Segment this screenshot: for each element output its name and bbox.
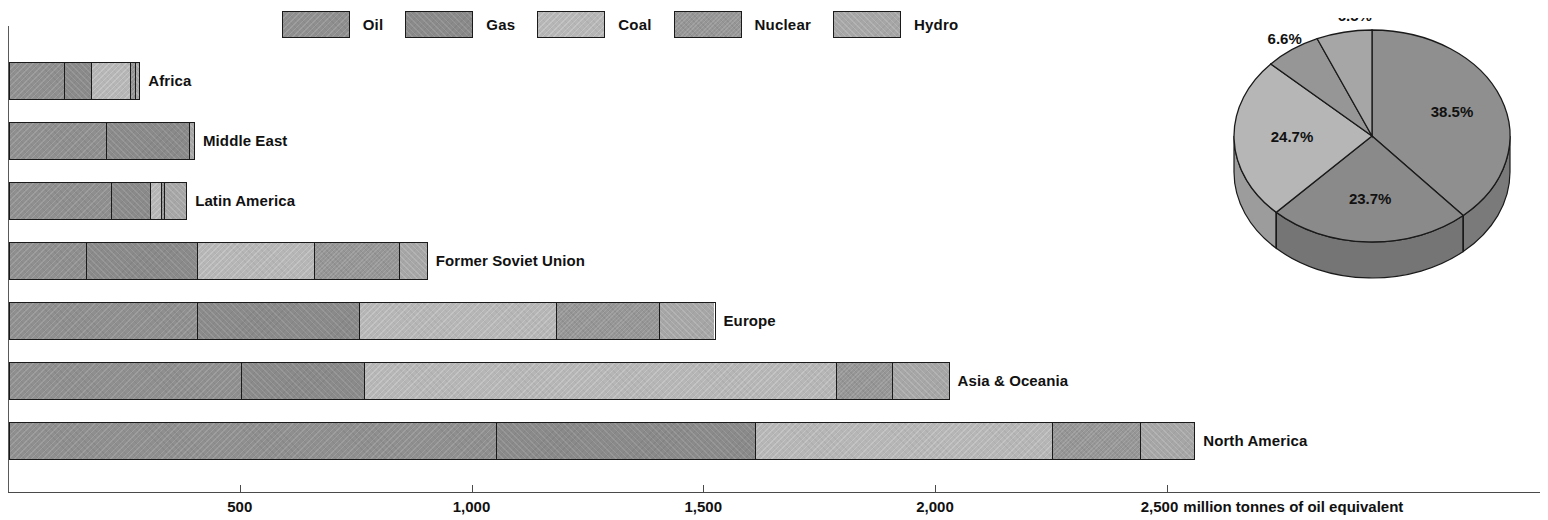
bar-segment-hydro [893, 363, 949, 399]
x-tick-2500 [1167, 485, 1168, 493]
bar-category-label: Europe [724, 302, 776, 340]
bar-segment-gas [87, 243, 198, 279]
pie-percent-label-hydro: 6.5% [1338, 18, 1372, 24]
bar-segment-hydro [165, 183, 186, 219]
bar-category-label: Africa [148, 62, 191, 100]
bar-segment-nuclear [837, 363, 893, 399]
bar-segment-hydro [400, 243, 427, 279]
x-tick-500 [240, 485, 241, 493]
x-tick-label-2000: 2,000 [916, 498, 954, 515]
bar-segment-gas [198, 303, 360, 339]
bar-segment-oil [10, 363, 242, 399]
bar-segment-coal [365, 363, 838, 399]
pie-percent-label-gas: 23.7% [1349, 190, 1392, 207]
bar-segment-oil [10, 123, 107, 159]
bar-segment-coal [151, 183, 161, 219]
bar-category-label: Asia & Oceania [958, 362, 1069, 400]
bar-segment-oil [10, 243, 87, 279]
pie-percent-label-coal: 24.7% [1271, 128, 1314, 145]
bar-segment-hydro [660, 303, 715, 339]
bar-segment-coal [360, 303, 557, 339]
bar-segment-gas [242, 363, 365, 399]
x-tick-label-2500: 2,500 [1141, 498, 1179, 515]
pie-percent-label-nuclear: 6.6% [1268, 30, 1302, 47]
bar-segment-hydro [136, 63, 140, 99]
x-tick-2000 [935, 485, 936, 493]
stacked-bar [9, 62, 140, 100]
stacked-bar [9, 182, 187, 220]
stacked-bar [9, 302, 716, 340]
bar-category-label: North America [1203, 422, 1307, 460]
pie-chart: 38.5%23.7%24.7%6.6%6.5% [1232, 18, 1532, 288]
bar-segment-hydro [1141, 423, 1194, 459]
bar-segment-oil [10, 183, 112, 219]
x-tick-1000 [472, 485, 473, 493]
stacked-bar [9, 122, 195, 160]
x-axis-units-label: million tonnes of oil equivalent [1183, 498, 1403, 515]
stacked-bar [9, 242, 428, 280]
bar-segment-gas [65, 63, 92, 99]
bar-segment-coal [756, 423, 1053, 459]
x-axis-line [8, 492, 1540, 493]
stacked-bar [9, 422, 1195, 460]
x-tick-label-1000: 1,000 [453, 498, 491, 515]
stacked-bar [9, 362, 950, 400]
x-tick-label-500: 500 [227, 498, 252, 515]
bar-segment-oil [10, 423, 497, 459]
bar-segment-oil [10, 63, 65, 99]
bar-segment-hydro [190, 123, 194, 159]
bar-category-label: Middle East [203, 122, 287, 160]
bar-category-label: Latin America [195, 182, 295, 220]
bar-segment-gas [497, 423, 757, 459]
x-tick-label-1500: 1,500 [684, 498, 722, 515]
bar-segment-oil [10, 303, 198, 339]
bar-segment-gas [107, 123, 190, 159]
bar-category-label: Former Soviet Union [436, 242, 585, 280]
bar-segment-gas [112, 183, 152, 219]
bar-segment-nuclear [557, 303, 660, 339]
pie-svg: 38.5%23.7%24.7%6.6%6.5% [1232, 18, 1532, 288]
bar-segment-nuclear [315, 243, 400, 279]
bar-segment-nuclear [1053, 423, 1141, 459]
bar-segment-coal [198, 243, 315, 279]
x-tick-1500 [703, 485, 704, 493]
pie-percent-label-oil: 38.5% [1431, 103, 1474, 120]
bar-segment-coal [92, 63, 132, 99]
x-tick-label-2500: 2,500million tonnes of oil equivalent [1141, 498, 1404, 515]
